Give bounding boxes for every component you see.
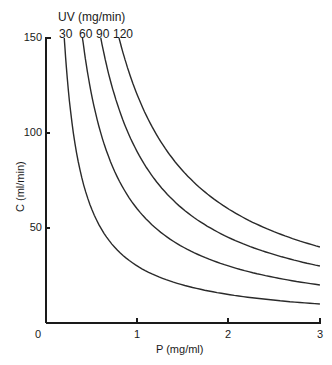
y-axis-label: C (ml/min) xyxy=(14,161,26,212)
y-tick-label-150: 150 xyxy=(12,31,42,43)
curve-uv-90 xyxy=(101,38,320,266)
plot-area xyxy=(0,0,332,365)
curve-uv-30 xyxy=(64,38,320,304)
y-tick-label-100: 100 xyxy=(12,126,42,138)
curve-group xyxy=(64,38,320,304)
curve-label-120: 120 xyxy=(113,27,133,41)
legend-title: UV (mg/min) xyxy=(58,10,125,24)
x-tick-label-1: 1 xyxy=(127,328,147,340)
curve-label-90: 90 xyxy=(96,27,109,41)
origin-label: 0 xyxy=(28,328,48,340)
curve-label-30: 30 xyxy=(59,27,72,41)
x-tick-label-2: 2 xyxy=(218,328,238,340)
y-tick-label-50: 50 xyxy=(12,221,42,233)
curve-uv-60 xyxy=(83,38,320,285)
x-tick-label-3: 3 xyxy=(310,328,330,340)
x-axis-label: P (mg/ml) xyxy=(156,343,203,355)
curve-label-60: 60 xyxy=(79,27,92,41)
curve-uv-120 xyxy=(119,38,320,247)
